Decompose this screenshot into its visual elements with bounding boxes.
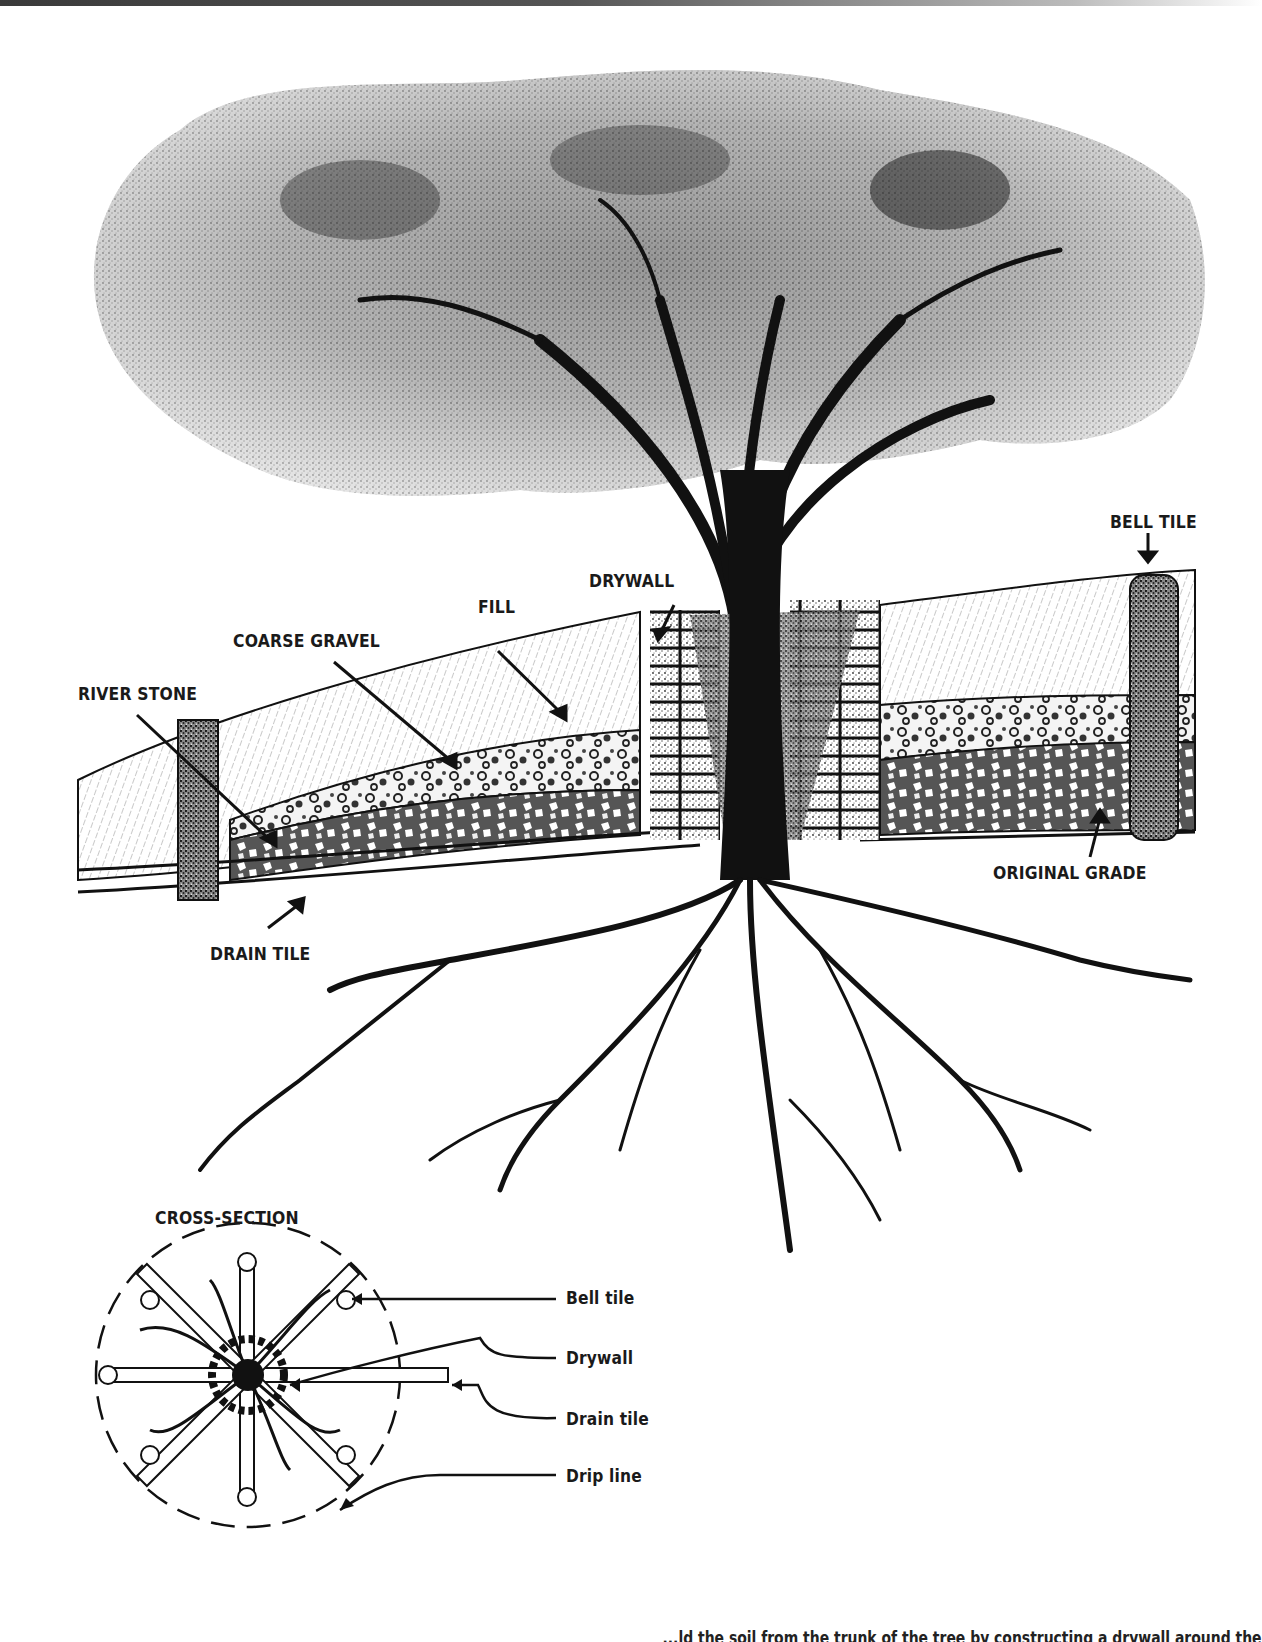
label-river-stone: RIVER STONE	[78, 684, 197, 704]
cross-section-diagram	[96, 1223, 556, 1527]
tree-trunk	[720, 470, 790, 880]
label-drain-tile: DRAIN TILE	[210, 944, 310, 964]
tree-canopy	[94, 70, 1205, 496]
legend-drip-line: Drip line	[566, 1465, 642, 1486]
label-bell-tile: BELL TILE	[1110, 512, 1197, 532]
label-coarse-gravel: COARSE GRAVEL	[233, 631, 380, 651]
caption-text: ...ld the soil from the trunk of the tre…	[663, 1628, 1262, 1642]
tree-roots	[200, 880, 1190, 1250]
tree-illustration	[0, 0, 1262, 1642]
label-original-grade: ORIGINAL GRADE	[993, 863, 1147, 883]
soil-layers-left	[78, 612, 700, 900]
legend-bell-tile: Bell tile	[566, 1287, 634, 1308]
soil-layers-right	[860, 570, 1195, 840]
figure-caption: ...ld the soil from the trunk of the tre…	[0, 1622, 1262, 1642]
label-drywall: DRYWALL	[589, 571, 674, 591]
legend-drain-tile: Drain tile	[566, 1408, 649, 1429]
legend-drywall: Drywall	[566, 1347, 633, 1368]
cross-section-title: CROSS-SECTION	[155, 1208, 299, 1228]
label-fill: FILL	[478, 597, 515, 617]
